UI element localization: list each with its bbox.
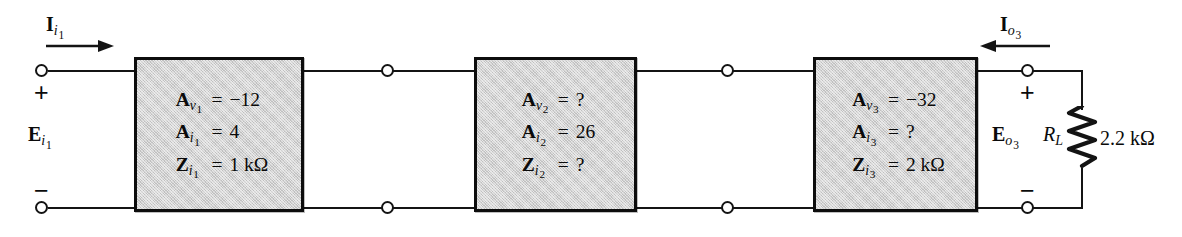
stage-3-row-1-equals: = — [879, 118, 906, 151]
output-minus-sign: − — [1020, 178, 1035, 203]
output-plus-sign: + — [1020, 80, 1035, 105]
stage-3-row-0-equals: = — [879, 86, 906, 119]
table-row: Av2 = ? — [522, 86, 595, 119]
amplifier-stage-3[interactable]: Av3 = −32 Ai3 = ? Zi3 = 2 kΩ — [813, 57, 978, 212]
wire-load-top — [1033, 70, 1082, 72]
stage-3-row-2-value: 2 kΩ — [906, 151, 945, 184]
stage-2-row-2-value: ? — [576, 151, 596, 184]
stage-2-row-2-equals: = — [549, 151, 576, 184]
stage-2-row-2-symbol: Zi2 — [522, 151, 549, 184]
stage-2-row-0-equals: = — [549, 86, 576, 119]
table-row: Av3 = −32 — [852, 86, 945, 119]
input-plus-sign: + — [34, 80, 49, 105]
stage-2-row-0-symbol: Av2 — [522, 86, 549, 119]
circuit-diagram-canvas: Av1 = −12 Ai1 = 4 Zi1 = 1 kΩ Av2 = ? — [0, 0, 1182, 237]
stage-3-row-2-symbol: Zi3 — [852, 151, 879, 184]
stage-3-row-0-value: −32 — [906, 86, 945, 119]
stage-3-row-2-equals: = — [879, 151, 906, 184]
stage-1-parameters: Av1 = −12 Ai1 = 4 Zi1 = 1 kΩ — [176, 86, 269, 184]
stage-2-parameters: Av2 = ? Ai2 = 26 Zi2 = ? — [522, 86, 595, 184]
stage-3-parameters: Av3 = −32 Ai3 = ? Zi3 = 2 kΩ — [852, 86, 945, 184]
amplifier-stage-1[interactable]: Av1 = −12 Ai1 = 4 Zi1 = 1 kΩ — [134, 57, 304, 212]
table-row: Ai3 = ? — [852, 118, 945, 151]
input-current-arrow-icon — [46, 38, 116, 54]
load-resistor-value: 2.2 kΩ — [1100, 128, 1155, 148]
node-stage1-stage2-top[interactable] — [381, 64, 394, 77]
stage-1-row-1-symbol: Ai1 — [176, 118, 203, 151]
node-stage2-stage3-top[interactable] — [721, 64, 734, 77]
wire-bottom-input — [48, 207, 136, 209]
stage-1-row-2-symbol: Zi1 — [176, 151, 203, 184]
stage-1-row-2-value: 1 kΩ — [229, 151, 268, 184]
amplifier-stage-2[interactable]: Av2 = ? Ai2 = 26 Zi2 = ? — [474, 57, 637, 212]
table-row: Av1 = −12 — [176, 86, 269, 119]
load-resistor-symbol: RL — [1043, 124, 1063, 148]
wire-bottom-output — [976, 207, 1026, 209]
stage-1-row-0-symbol: Av1 — [176, 86, 203, 119]
table-row: Zi3 = 2 kΩ — [852, 151, 945, 184]
stage-3-row-1-value: ? — [906, 118, 945, 151]
wire-load-leg-top — [1081, 70, 1083, 110]
stage-3-row-0-symbol: Av3 — [852, 86, 879, 119]
stage-2-row-1-value: 26 — [576, 118, 596, 151]
wire-load-bottom — [1033, 207, 1082, 209]
table-row: Ai1 = 4 — [176, 118, 269, 151]
node-stage2-stage3-bottom[interactable] — [721, 201, 734, 214]
stage-2-row-0-value: ? — [576, 86, 596, 119]
stage-1-row-2-equals: = — [202, 151, 229, 184]
stage-1-row-1-value: 4 — [229, 118, 268, 151]
stage-1-row-0-value: −12 — [229, 86, 268, 119]
stage-2-row-1-equals: = — [549, 118, 576, 151]
stage-2-row-1-symbol: Ai2 — [522, 118, 549, 151]
wire-top-input — [48, 70, 136, 72]
table-row: Zi1 = 1 kΩ — [176, 151, 269, 184]
stage-1-row-0-equals: = — [202, 86, 229, 119]
table-row: Zi2 = ? — [522, 151, 595, 184]
load-resistor-icon — [1066, 106, 1098, 170]
stage-3-row-1-symbol: Ai3 — [852, 118, 879, 151]
wire-load-leg-bottom — [1081, 168, 1083, 209]
input-minus-sign: − — [34, 178, 49, 203]
node-stage1-stage2-bottom[interactable] — [381, 201, 394, 214]
output-voltage-label: Eo3 — [992, 124, 1019, 151]
output-current-arrow-icon — [978, 38, 1050, 54]
table-row: Ai2 = 26 — [522, 118, 595, 151]
input-voltage-label: Ei1 — [28, 124, 52, 151]
terminal-input-positive[interactable] — [35, 64, 48, 77]
terminal-output-positive[interactable] — [1021, 64, 1034, 77]
wire-top-output — [976, 70, 1026, 72]
stage-1-row-1-equals: = — [202, 118, 229, 151]
